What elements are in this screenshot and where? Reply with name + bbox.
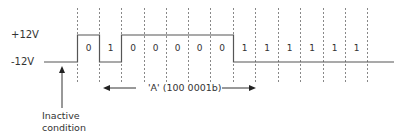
character-label: 'A' (100 0001b)	[148, 82, 222, 94]
low-level-label: -12V	[11, 56, 34, 68]
bit-label: 1	[108, 43, 114, 53]
bit-label: 1	[264, 43, 270, 53]
inactive-label-line2: condition	[42, 122, 86, 134]
character-span-arrow-left	[103, 85, 136, 91]
high-level-label: +12V	[11, 29, 39, 41]
bit-label: 1	[332, 43, 338, 53]
bit-label: 0	[130, 43, 136, 53]
bit-label: 0	[153, 43, 159, 53]
bit-label: 0	[175, 43, 181, 53]
bit-label: 1	[309, 43, 315, 53]
bit-label: 0	[219, 43, 225, 53]
inactive-arrow	[59, 66, 65, 108]
bit-label: 1	[354, 43, 360, 53]
bit-label: 1	[287, 43, 293, 53]
character-span-arrow-right	[222, 85, 256, 91]
bit-label: 0	[197, 43, 203, 53]
inactive-label-line1: Inactive	[42, 110, 80, 122]
bit-label: 0	[86, 43, 92, 53]
bit-label: 1	[242, 43, 248, 53]
